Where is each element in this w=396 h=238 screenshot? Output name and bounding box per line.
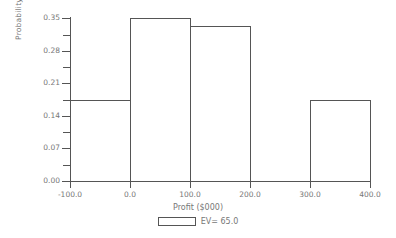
y-tick-1: [62, 148, 70, 149]
y-minor-tick-0: [63, 165, 70, 166]
y-tick-label-0: 0.00: [30, 177, 60, 185]
histogram-bar-1: [130, 18, 191, 182]
x-tick-4: [310, 181, 311, 188]
y-tick-label-4: 0.28: [30, 47, 60, 55]
histogram-bar-4: [310, 100, 371, 182]
y-tick-label-2: 0.14: [30, 112, 60, 120]
x-tick-3: [250, 181, 251, 188]
legend-label-ev: EV= 65.0: [201, 217, 239, 226]
y-minor-tick-3: [63, 67, 70, 68]
x-tick-label-2: 100.0: [165, 190, 215, 199]
y-tick-label-5: 0.35: [30, 14, 60, 22]
histogram-bar-0: [70, 100, 131, 182]
y-tick-3: [62, 83, 70, 84]
x-axis-title: Profit ($000): [0, 203, 396, 212]
y-tick-4: [62, 51, 70, 52]
y-tick-label-3: 0.21: [30, 79, 60, 87]
y-minor-tick-2: [63, 100, 70, 101]
x-tick-label-5: 400.0: [345, 190, 395, 199]
x-tick-5: [370, 181, 371, 188]
x-tick-label-0: -100.0: [45, 190, 95, 199]
y-tick-0: [62, 181, 70, 182]
y-axis-title: Probability: [14, 0, 28, 69]
y-tick-2: [62, 116, 70, 117]
chart-legend: EV= 65.0: [0, 217, 396, 226]
x-tick-label-1: 0.0: [105, 190, 155, 199]
y-tick-label-1: 0.07: [30, 144, 60, 152]
legend-swatch-icon: [158, 217, 196, 226]
y-tick-5: [62, 18, 70, 19]
y-minor-tick-4: [63, 35, 70, 36]
histogram-chart: Probability 0.00 0.07 0.14 0.21 0.28 0.3…: [0, 0, 396, 238]
x-tick-label-4: 300.0: [285, 190, 335, 199]
x-tick-2: [190, 181, 191, 188]
x-tick-0: [70, 181, 71, 188]
x-tick-label-3: 200.0: [225, 190, 275, 199]
y-minor-tick-1: [63, 132, 70, 133]
x-tick-1: [130, 181, 131, 188]
histogram-bar-2: [190, 26, 251, 182]
